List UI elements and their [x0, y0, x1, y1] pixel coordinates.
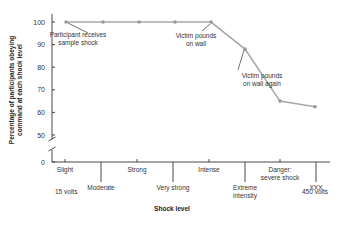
x-category-label: intensity — [233, 192, 258, 200]
y-tick-label: 90 — [37, 41, 45, 48]
annotation-text: Participant receives — [50, 31, 107, 39]
y-tick-label: 100 — [33, 19, 45, 26]
y-axis-title-line-1: Percentage of participants obeying — [8, 36, 16, 144]
annotation-text: sample shock — [58, 39, 98, 47]
x-category-labels: SlightModerateStrongVery strongIntenseEx… — [57, 166, 323, 200]
annotation-text: on wall again — [243, 80, 281, 88]
range-end-label: 450 volts — [302, 188, 329, 195]
x-category-label: Slight — [57, 166, 73, 174]
x-category-label: severe shock — [261, 174, 300, 181]
annotation-text: on wall — [186, 40, 207, 47]
y-tick-label: 50 — [37, 132, 45, 139]
y-tick-label: 0 — [41, 159, 45, 166]
data-point — [173, 20, 177, 24]
y-tick-label: 80 — [37, 64, 45, 71]
range-start-label: 15 volts — [55, 188, 78, 195]
data-point — [278, 99, 282, 103]
chart: Percentage of participants obeying comma… — [0, 0, 342, 226]
data-point — [313, 105, 317, 109]
annotations: Participant receivessample shockVictim p… — [50, 23, 283, 88]
x-category-label: Strong — [127, 166, 147, 174]
x-category-label: Extreme — [233, 184, 258, 191]
x-category-label: Danger: — [268, 166, 291, 174]
data-point — [64, 20, 68, 24]
x-category-label: Intense — [198, 166, 220, 173]
data-point — [209, 20, 213, 24]
data-point — [137, 20, 141, 24]
annotation-text: Victim pounds — [242, 72, 283, 80]
x-category-label: Moderate — [87, 184, 115, 191]
annotation-leader-line — [202, 24, 210, 31]
x-category-label: Very strong — [157, 184, 190, 192]
data-point — [101, 20, 105, 24]
y-tick-label: 70 — [37, 86, 45, 93]
annotation-text: Victim pounds — [176, 32, 217, 40]
x-axis-title: Shock level — [154, 205, 190, 212]
y-axis-title-line-2: command at each shock level — [16, 44, 23, 136]
y-axis-title: Percentage of participants obeying comma… — [8, 36, 23, 144]
y-tick-label: 60 — [37, 109, 45, 116]
annotation-leader-line — [238, 50, 244, 70]
